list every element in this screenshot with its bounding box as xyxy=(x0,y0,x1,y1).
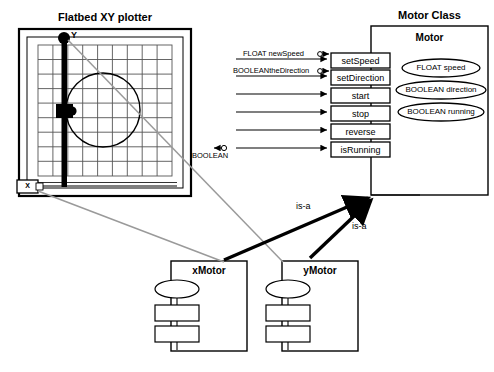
plotter-y-axis-label: Y xyxy=(71,31,77,40)
attribute-boolean-direction: BOOLEAN direction xyxy=(396,86,486,94)
isa-label-ymotor: is-a xyxy=(352,222,367,231)
attribute-boolean-running: BOOLEAN running xyxy=(398,108,484,116)
motor-class-title: Motor Class xyxy=(371,10,488,21)
attribute-float-speed: FLOAT speed xyxy=(402,64,480,72)
method-setspeed[interactable]: setSpeed xyxy=(331,57,390,66)
plotter-title: Flatbed XY plotter xyxy=(19,12,191,23)
param-float-newspeed: FLOAT newSpeed xyxy=(243,50,304,58)
plotter-x-axis-label: X xyxy=(17,182,38,189)
method-reverse[interactable]: reverse xyxy=(331,128,390,137)
instance-ymotor-label[interactable]: yMotor xyxy=(282,266,358,276)
isa-label-xmotor: is-a xyxy=(296,202,311,211)
diagram-canvas: Flatbed XY plotter Y X Motor Class Motor… xyxy=(0,0,494,372)
plotter-group xyxy=(17,29,191,196)
method-stop[interactable]: stop xyxy=(331,110,390,119)
method-setdirection[interactable]: setDirection xyxy=(329,74,392,83)
return-boolean: BOOLEAN xyxy=(192,152,228,160)
method-isrunning[interactable]: isRunning xyxy=(331,146,390,155)
motor-class-name: Motor xyxy=(371,33,488,43)
param-boolean-thedirection: BOOLEANtheDirection xyxy=(233,67,309,75)
method-start[interactable]: start xyxy=(331,92,390,101)
instance-xmotor-label[interactable]: xMotor xyxy=(171,266,247,276)
